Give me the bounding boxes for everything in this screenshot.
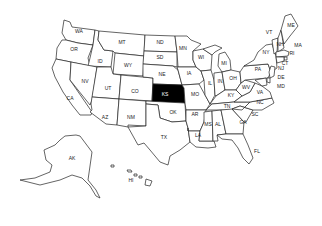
label-nh: NH bbox=[276, 41, 284, 47]
label-wa: WA bbox=[75, 28, 84, 34]
label-ia: IA bbox=[187, 70, 192, 76]
state-de[interactable] bbox=[267, 78, 270, 83]
label-ca: CA bbox=[67, 95, 75, 101]
state-az[interactable] bbox=[90, 97, 119, 125]
label-wi: WI bbox=[198, 54, 204, 60]
label-il: IL bbox=[208, 80, 212, 86]
label-ky: KY bbox=[228, 92, 235, 98]
label-wv: WV bbox=[242, 84, 251, 90]
label-mo: MO bbox=[191, 91, 199, 97]
label-co: CO bbox=[131, 88, 139, 94]
label-de: DE bbox=[278, 74, 286, 80]
label-ga: GA bbox=[239, 119, 247, 125]
label-pa: PA bbox=[255, 66, 262, 72]
label-nj: NJ bbox=[278, 65, 285, 71]
label-ri: RI bbox=[290, 50, 295, 56]
label-ar: AR bbox=[192, 111, 199, 117]
label-ut: UT bbox=[105, 85, 112, 91]
state-ak[interactable] bbox=[20, 135, 100, 198]
us-map: WA OR CA ID NV MT WY UT CO AZ NM ND SD N… bbox=[0, 0, 322, 226]
label-id: ID bbox=[98, 58, 103, 64]
label-va: VA bbox=[257, 89, 264, 95]
label-nm: NM bbox=[127, 114, 135, 120]
label-ok: OK bbox=[169, 109, 177, 115]
label-ne: NE bbox=[159, 71, 167, 77]
state-ks[interactable] bbox=[152, 84, 185, 103]
label-nv: NV bbox=[82, 78, 90, 84]
label-mi: MI bbox=[221, 60, 227, 66]
state-fl[interactable] bbox=[217, 134, 253, 164]
label-mt: MT bbox=[118, 39, 125, 45]
label-ny: NY bbox=[263, 49, 271, 55]
label-tx: TX bbox=[161, 134, 168, 140]
label-tn: TN bbox=[224, 103, 231, 109]
label-ks: KS bbox=[162, 91, 169, 97]
label-ma: MA bbox=[294, 42, 302, 48]
label-nc: NC bbox=[256, 99, 264, 105]
label-al: AL bbox=[215, 121, 221, 127]
label-sc: SC bbox=[252, 111, 259, 117]
state-nm[interactable] bbox=[117, 99, 146, 127]
label-ak: AK bbox=[69, 155, 76, 161]
label-ms: MS bbox=[204, 121, 212, 127]
label-hi: HI bbox=[129, 177, 134, 183]
label-in: IN bbox=[218, 78, 223, 84]
label-or: OR bbox=[70, 46, 78, 52]
label-nd: ND bbox=[156, 39, 164, 45]
label-vt: VT bbox=[266, 29, 272, 35]
label-la: LA bbox=[195, 132, 202, 138]
state-me[interactable] bbox=[281, 14, 298, 44]
label-oh: OH bbox=[229, 75, 237, 81]
label-sd: SD bbox=[157, 54, 164, 60]
label-fl: FL bbox=[254, 148, 260, 154]
label-mn: MN bbox=[179, 45, 187, 51]
label-md: MD bbox=[277, 83, 285, 89]
label-me: ME bbox=[287, 22, 295, 28]
label-wy: WY bbox=[124, 62, 133, 68]
label-az: AZ bbox=[102, 114, 108, 120]
